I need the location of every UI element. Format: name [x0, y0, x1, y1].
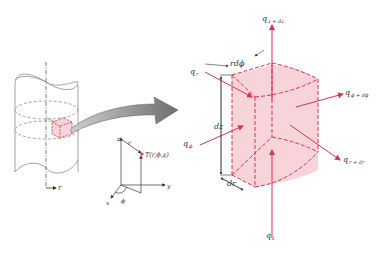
point-label: T(r,ϕ,z)	[145, 151, 169, 159]
svg-text:ϕ: ϕ	[189, 143, 193, 150]
dim-label-dz: dz	[214, 122, 224, 131]
svg-text:q: q	[343, 155, 348, 164]
svg-text:z + dz: z + dz	[267, 18, 284, 24]
radial-axis-label: r	[58, 184, 62, 192]
flux-label-q-r: q r	[190, 67, 199, 77]
y-axis-label: y	[166, 182, 171, 190]
svg-text:r + dr: r + dr	[349, 159, 365, 165]
svg-text:r: r	[196, 71, 199, 77]
flux-label-q-phi: q ϕ	[183, 139, 193, 150]
flux-label-q-z-dz: q z + dz	[262, 14, 284, 24]
svg-text:q: q	[262, 14, 267, 23]
r-vector-label: r	[128, 139, 132, 146]
small-element	[46, 117, 72, 138]
svg-text:q: q	[190, 67, 195, 76]
diagram-canvas: r z r T(r,ϕ,z) y x ϕ	[0, 0, 381, 258]
differential-element	[232, 63, 318, 187]
point-marker	[140, 152, 143, 155]
flux-label-q-r-dr: q r + dr	[343, 155, 365, 165]
svg-text:ϕ + dϕ: ϕ + dϕ	[351, 92, 369, 99]
coordinate-system	[111, 138, 165, 198]
radial-axis: r	[46, 184, 62, 192]
dim-label-dr: dr	[227, 179, 237, 188]
dim-label-rdphi: rdϕ	[230, 59, 245, 68]
x-axis-label: x	[106, 199, 110, 206]
svg-text:z: z	[271, 235, 275, 241]
svg-text:q: q	[345, 88, 350, 97]
svg-text:q: q	[266, 231, 271, 240]
svg-text:q: q	[183, 139, 188, 148]
flux-label-q-z: q z	[266, 231, 275, 241]
phi-angle-label: ϕ	[121, 197, 125, 205]
z-axis-label: z	[116, 135, 121, 142]
zoom-arrow	[70, 97, 178, 133]
flux-label-q-phi-dphi: q ϕ + dϕ	[345, 88, 369, 99]
